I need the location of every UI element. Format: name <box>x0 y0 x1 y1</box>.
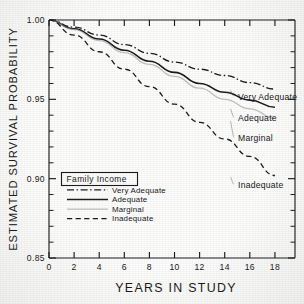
legend-label-very-adequate: Very Adequate <box>112 186 166 195</box>
x-tick-label: 14 <box>220 262 230 272</box>
x-tick-label: 2 <box>72 262 77 272</box>
x-axis-major-ticks <box>49 252 275 258</box>
series-label-leader <box>231 177 234 184</box>
legend: Family Income Very AdequateAdequateMargi… <box>62 173 167 224</box>
x-tick-label: 0 <box>46 262 51 272</box>
legend-entry-labels: Very AdequateAdequateMarginalInadequate <box>112 186 166 224</box>
series-label-leader <box>231 121 234 137</box>
y-axis-minor-ticks <box>49 36 54 242</box>
y-tick-label: 0.95 <box>27 94 45 104</box>
legend-label-inadequate: Inadequate <box>112 214 154 223</box>
series-end-label-very-adequate: Very Adequate <box>238 92 297 102</box>
y-tick-label: 1.00 <box>27 15 45 25</box>
x-tick-label: 4 <box>97 262 102 272</box>
legend-label-marginal: Marginal <box>112 205 144 214</box>
x-tick-label: 10 <box>169 262 179 272</box>
y-tick-label: 0.90 <box>27 174 45 184</box>
x-tick-label: 12 <box>194 262 204 272</box>
survival-probability-figure: 0.850.900.951.00 024681012141618 Very Ad… <box>0 0 304 304</box>
x-axis-tick-labels: 024681012141618 <box>46 262 280 272</box>
x-tick-label: 6 <box>122 262 127 272</box>
series-line-marginal <box>49 20 275 118</box>
series-end-label-adequate: Adequate <box>238 113 277 123</box>
x-tick-label: 8 <box>147 262 152 272</box>
x-axis-title: YEARS IN STUDY <box>115 281 236 295</box>
x-tick-label: 18 <box>270 262 280 272</box>
y-axis-tick-labels: 0.850.900.951.00 <box>27 15 45 263</box>
x-axis-top-ticks <box>49 20 275 26</box>
y-axis-minor-ticks-right <box>291 36 296 242</box>
legend-sample-lines <box>67 190 108 219</box>
series-line-very-adequate <box>49 20 275 89</box>
series-end-label-inadequate: Inadequate <box>238 180 284 190</box>
y-axis-title: ESTIMATED SURVIVAL PROBABILITY <box>7 27 19 251</box>
x-tick-label: 16 <box>245 262 255 272</box>
legend-label-adequate: Adequate <box>112 195 148 204</box>
chart-canvas: 0.850.900.951.00 024681012141618 Very Ad… <box>0 0 304 304</box>
series-label-leader <box>231 109 234 117</box>
y-tick-label: 0.85 <box>27 253 45 263</box>
series-end-label-marginal: Marginal <box>238 133 273 143</box>
legend-title: Family Income <box>67 174 127 184</box>
